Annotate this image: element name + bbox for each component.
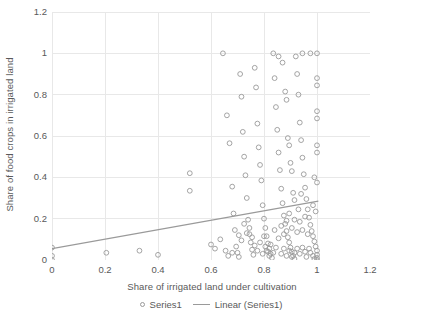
data-point xyxy=(255,248,260,253)
data-point xyxy=(276,236,281,241)
data-point xyxy=(240,129,245,134)
data-point xyxy=(305,232,310,237)
data-point xyxy=(238,72,243,77)
data-point xyxy=(137,248,142,253)
plot-area xyxy=(52,12,370,260)
data-point xyxy=(283,89,288,94)
data-point xyxy=(247,226,252,231)
data-point xyxy=(259,178,264,183)
legend-label-series1: Series1 xyxy=(150,299,182,310)
data-point xyxy=(232,228,237,233)
data-point xyxy=(187,188,192,193)
data-point xyxy=(276,150,281,155)
data-point xyxy=(291,190,296,195)
x-tick-label: 0 xyxy=(32,264,72,275)
data-point xyxy=(234,244,239,249)
data-point xyxy=(297,251,302,256)
data-point xyxy=(300,228,305,233)
x-tick-label: 0.8 xyxy=(244,264,284,275)
data-point xyxy=(296,207,301,212)
data-point xyxy=(254,85,259,90)
y-tick-label: 1 xyxy=(21,47,47,58)
data-point xyxy=(303,185,308,190)
data-point xyxy=(225,113,230,118)
data-point xyxy=(239,238,244,243)
y-tick-label: 0.8 xyxy=(21,89,47,100)
data-point xyxy=(226,253,231,258)
data-point xyxy=(280,60,285,65)
data-point xyxy=(281,246,286,251)
data-point xyxy=(252,65,257,70)
data-point xyxy=(246,217,251,222)
data-point xyxy=(312,239,317,244)
y-axis-title-text: Share of food crops in irrigated land xyxy=(4,57,15,211)
data-point xyxy=(187,171,192,176)
data-point xyxy=(279,224,284,229)
data-point xyxy=(272,228,277,233)
data-point xyxy=(258,163,263,168)
chart-legend: Series1 Linear (Series1) xyxy=(0,299,422,310)
data-point xyxy=(258,240,263,245)
y-tick-label: 0.6 xyxy=(21,130,47,141)
data-point xyxy=(287,143,292,148)
legend-item-trendline[interactable]: Linear (Series1) xyxy=(193,299,283,310)
scatter-chart: Share of food crops in irrigated land 00… xyxy=(0,0,422,324)
data-point xyxy=(236,233,241,238)
data-point xyxy=(311,203,316,208)
data-point xyxy=(230,184,235,189)
data-point xyxy=(304,255,309,260)
x-tick-label: 1 xyxy=(297,264,337,275)
data-point xyxy=(251,252,256,257)
data-point xyxy=(231,211,236,216)
data-point xyxy=(275,127,280,132)
data-point xyxy=(274,245,279,250)
data-point xyxy=(297,120,302,125)
data-point xyxy=(242,221,247,226)
data-point xyxy=(272,76,277,81)
data-point xyxy=(213,246,218,251)
data-point xyxy=(250,235,255,240)
data-point xyxy=(242,154,247,159)
data-point xyxy=(305,207,310,212)
data-point xyxy=(281,213,286,218)
data-point xyxy=(284,97,289,102)
data-point xyxy=(244,196,249,201)
data-point xyxy=(279,186,284,191)
data-point-group xyxy=(52,51,319,260)
data-point xyxy=(276,54,281,59)
data-point xyxy=(287,211,292,216)
data-point xyxy=(292,217,297,222)
data-point xyxy=(311,234,316,239)
data-point xyxy=(295,72,300,77)
data-point xyxy=(299,138,304,143)
data-point xyxy=(297,219,302,224)
data-point xyxy=(255,121,260,126)
x-tick-label: 0.6 xyxy=(191,264,231,275)
data-point xyxy=(287,240,292,245)
legend-label-trendline: Linear (Series1) xyxy=(215,299,283,310)
data-point xyxy=(280,201,285,206)
data-point xyxy=(300,245,305,250)
x-tick-label: 1.2 xyxy=(350,264,390,275)
data-point xyxy=(292,198,297,203)
data-point xyxy=(289,169,294,174)
x-tick-label: 0.4 xyxy=(138,264,178,275)
data-point xyxy=(308,222,313,227)
data-point xyxy=(279,251,284,256)
y-axis-title: Share of food crops in irrigated land xyxy=(0,0,18,268)
x-axis-title: Share of irrigated land under cultivatio… xyxy=(52,281,372,292)
data-point xyxy=(281,232,286,237)
data-point xyxy=(301,172,306,177)
data-point xyxy=(299,191,304,196)
data-point xyxy=(304,197,309,202)
open-circle-marker-icon xyxy=(140,302,145,307)
y-tick-label: 0.2 xyxy=(21,213,47,224)
legend-item-series1[interactable]: Series1 xyxy=(140,299,182,310)
y-tick-label: 1.2 xyxy=(21,6,47,17)
data-point xyxy=(256,145,261,150)
trendline xyxy=(52,201,318,249)
data-point xyxy=(278,168,283,173)
data-point xyxy=(252,243,257,248)
data-point xyxy=(223,248,228,253)
data-point xyxy=(227,141,232,146)
